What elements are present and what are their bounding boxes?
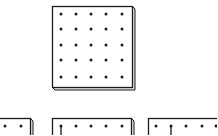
peg-icon [121,59,124,62]
peg-icon [60,44,63,47]
board-face [53,7,133,88]
peg-icon [105,125,108,128]
peg-icon [170,125,173,128]
peg-icon [60,76,63,79]
top-board [52,6,135,90]
peg-icon [105,76,108,79]
peg-icon [121,44,124,47]
peg-icon [90,13,93,16]
peg-icon [90,28,93,31]
peg-icon [155,125,158,128]
peg-icon [185,125,188,128]
peg-icon [75,28,78,31]
peg-icon [60,13,63,16]
peg-icon [90,44,93,47]
bottom-left-board [0,118,33,135]
peg-icon [121,125,124,128]
peg-icon [105,44,108,47]
peg-icon [121,76,124,79]
board-face [149,119,218,136]
peg-icon [60,125,63,128]
bottom-middle-board [52,118,134,135]
peg-icon [105,28,108,31]
peg-icon [20,125,23,128]
peg-icon [75,125,78,128]
peg-icon [4,125,7,128]
boards-layer [0,6,217,135]
peg-icon [105,59,108,62]
peg-icon [121,13,124,16]
peg-icon [90,76,93,79]
peg-icon [60,28,63,31]
geoboard-figure [0,0,217,135]
peg-icon [75,59,78,62]
peg-icon [75,13,78,16]
peg-icon [75,76,78,79]
peg-icon [121,28,124,31]
peg-icon [90,59,93,62]
peg-icon [90,125,93,128]
peg-icon [60,59,63,62]
peg-icon [105,13,108,16]
bottom-right-board [148,118,217,135]
peg-icon [201,125,204,128]
peg-icon [75,44,78,47]
